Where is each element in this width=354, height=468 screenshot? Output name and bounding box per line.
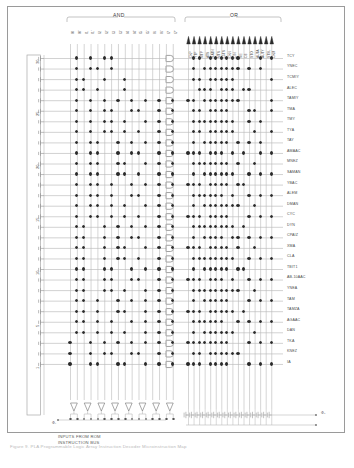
and-matrix-dot [157,172,160,175]
or-matrix-dot [209,352,212,355]
or-matrix-dot [270,172,273,175]
and-matrix-dot [137,215,140,218]
or-output-label: CKP [190,51,193,58]
or-output-label: AUTA [257,49,260,58]
and-matrix-dot [157,183,160,186]
or-matrix-dot [209,310,212,313]
or-output-label: NE [240,53,243,58]
and-matrix-dot [144,120,147,123]
or-output-label: YTP [195,52,198,58]
and-matrix-dot [110,289,113,292]
or-matrix-dot [209,78,212,81]
or-matrix-dot [198,278,201,281]
and-input-label: I2 [99,31,102,34]
and-matrix-dot [157,162,160,165]
and-input-label: I5 [140,31,143,34]
microinstruction-label: TAM [287,298,295,302]
or-matrix-dot [209,151,212,154]
or-matrix-dot [253,289,256,292]
and-matrix-dot [157,331,160,334]
microinstruction-label: DMAN [287,203,298,207]
and-matrix-dot [89,99,92,102]
or-matrix-dot [186,151,189,154]
or-output-label: MTN [218,51,221,58]
microinstruction-label: AB-10AAC [287,276,306,280]
microinstruction-label: KNEZ [287,350,297,354]
or-matrix-dot [214,172,217,175]
and-matrix-dot [137,194,140,197]
or-matrix-dot [209,172,212,175]
row-number-marker: 25 [36,112,40,116]
and-input-label: I7 [168,31,171,34]
and-matrix-dot [89,151,92,154]
or-matrix-dot [220,257,223,260]
or-matrix-dot [214,151,217,154]
or-matrix-dot [209,289,212,292]
or-matrix-dot [198,78,201,81]
and-matrix-dot [116,310,119,313]
or-matrix-dot [231,172,234,175]
and-matrix-dot [96,194,99,197]
and-matrix-dot [116,141,119,144]
or-matrix-dot [209,194,212,197]
and-input-label: I6 [154,31,157,34]
or-matrix-dot [259,194,262,197]
or-output-label: 15TN [223,50,226,58]
and-matrix-dot [130,99,133,102]
and-matrix-dot [144,331,147,334]
or-matrix-dot [220,78,223,81]
or-matrix-dot [192,194,195,197]
microinstruction-label: TKA [287,340,294,344]
microinstruction-label: DYN [287,224,295,228]
and-input-label: I6' [161,31,164,34]
or-matrix-dot [259,362,262,365]
row-number-marker: 20 [36,165,40,169]
microinstruction-label: SAMAN [287,171,301,175]
or-matrix-dot [259,299,262,302]
or-matrix-dot [259,120,262,123]
or-matrix-dot [259,215,262,218]
or-matrix-dot [231,289,234,292]
and-matrix-dot [96,141,99,144]
and-matrix-dot [103,352,106,355]
and-matrix-dot [130,267,133,270]
or-matrix-dot [186,278,189,281]
or-matrix-dot [270,215,273,218]
or-matrix-dot [203,172,206,175]
and-matrix-dot [110,215,113,218]
or-matrix-dot [198,362,201,365]
or-matrix-dot [270,257,273,260]
or-matrix-dot [198,215,201,218]
or-matrix-dot [220,151,223,154]
and-matrix-dot [82,78,85,81]
or-matrix-dot [220,352,223,355]
microinstruction-label: AMAAC [287,150,301,154]
or-output-label: ATN [207,52,210,58]
or-matrix-dot [236,204,239,207]
and-matrix-dot [103,278,106,281]
and-matrix-dot [89,215,92,218]
or-matrix-dot [270,362,273,365]
and-matrix-dot [103,236,106,239]
or-matrix-dot [220,362,223,365]
or-output-label: STO [251,51,254,58]
phi2-terminal-label: Φ₂ [321,412,326,416]
or-matrix-dot [186,183,189,186]
or-output-label: MTP [201,51,204,58]
and-matrix-dot [171,267,174,270]
and-matrix-dot [89,56,92,59]
and-matrix-dot [157,141,160,144]
and-matrix-dot [157,278,160,281]
or-matrix-dot [192,215,195,218]
or-matrix-dot [209,141,212,144]
or-matrix-dot [236,289,239,292]
or-matrix-dot [270,194,273,197]
microinstruction-label: YBAC [287,182,297,186]
and-input-label: I0 [72,31,75,34]
microinstruction-label: TAY [287,139,294,143]
microinstruction-label: TCY [287,55,295,59]
or-matrix-dot [231,120,234,123]
and-matrix-dot [103,120,106,123]
pla-decoder-figure: AND OR TCYYNECTCMIYALECTAMIYTMATMYTYATAY… [0,0,354,468]
or-matrix-dot [209,267,212,270]
